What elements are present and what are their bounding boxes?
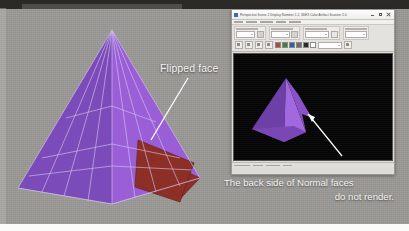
scale-tool-icon[interactable] [265, 41, 273, 49]
window-titlebar[interactable]: Perspective Scene 2 Display Rammer 1.2, … [232, 10, 394, 20]
color-swatch-row[interactable] [275, 42, 316, 48]
menu-item-view[interactable] [260, 21, 273, 23]
pyramid-left-face [18, 30, 112, 204]
status-segment-1 [234, 165, 250, 167]
group-label-shading [305, 28, 327, 30]
toolbar-group-material[interactable] [269, 26, 301, 40]
toolbar-icon-row[interactable] [234, 40, 392, 49]
close-icon[interactable] [386, 12, 391, 17]
shading-apply-button[interactable] [331, 31, 338, 38]
toolbar-group-render[interactable] [343, 26, 369, 40]
coordinate-field[interactable] [318, 42, 342, 49]
swatch-white[interactable] [310, 42, 316, 48]
window-title: Perspective Scene 2 Display Rammer 1.2, … [240, 13, 370, 17]
menu-item-edit[interactable] [246, 21, 257, 23]
slide-image: Flipped face The back side of Normal fac… [0, 0, 409, 231]
rotate-tool-icon[interactable] [255, 41, 263, 49]
flipped-face-label: Flipped face [160, 62, 218, 74]
slide-top-band-highlight [22, 4, 182, 9]
status-segment-4 [283, 165, 292, 167]
group-label-display [236, 28, 258, 30]
swatch-blue[interactable] [289, 42, 295, 48]
menu-item-file[interactable] [234, 21, 243, 23]
swatch-red[interactable] [275, 42, 281, 48]
select-tool-icon[interactable] [235, 41, 243, 49]
group-label-material [271, 28, 293, 30]
toolbar-group-shading[interactable] [303, 26, 340, 40]
swatch-gray[interactable] [296, 42, 302, 48]
swatch-black[interactable] [303, 42, 309, 48]
slide-bottom-margin [0, 224, 409, 231]
status-segment-3 [266, 165, 280, 167]
menu-item-tools[interactable] [276, 21, 286, 23]
display-toggle-button[interactable] [257, 31, 264, 38]
viewport-arrow [308, 114, 342, 156]
minimize-icon[interactable] [370, 12, 375, 17]
pyramid-illustration [4, 18, 219, 218]
group-label-render [345, 28, 367, 30]
caption-line-2: do not render. [224, 190, 400, 204]
grid-toggle-icon[interactable] [344, 41, 352, 49]
move-tool-icon[interactable] [245, 41, 253, 49]
display-mode-dropdown[interactable] [236, 31, 255, 38]
shading-dropdown[interactable] [305, 31, 329, 38]
slide-caption: The back side of Normal faces do not ren… [224, 176, 400, 204]
status-bar [232, 162, 394, 168]
caption-line-1: The back side of Normal faces [224, 176, 400, 190]
viewport-3d[interactable] [233, 53, 393, 161]
toolbar-group-display[interactable] [234, 26, 266, 40]
toolbar[interactable] [232, 25, 394, 52]
status-segment-2 [253, 165, 263, 167]
app-icon [234, 13, 238, 17]
material-dropdown[interactable] [271, 31, 290, 38]
maximize-icon[interactable] [378, 12, 383, 17]
material-edit-button[interactable] [291, 31, 298, 38]
render-dropdown[interactable] [345, 31, 367, 38]
window-controls[interactable] [370, 12, 392, 17]
application-window[interactable]: Perspective Scene 2 Display Rammer 1.2, … [231, 9, 395, 175]
swatch-green[interactable] [282, 42, 288, 48]
menu-item-help[interactable] [289, 21, 301, 23]
